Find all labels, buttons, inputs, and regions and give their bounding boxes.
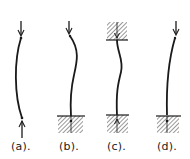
label-c: (c).	[107, 141, 126, 153]
fixed-support-icon	[156, 116, 181, 133]
buckled-column-curve	[167, 38, 175, 115]
fixed-support-icon	[57, 116, 85, 133]
top-load-arrow-icon	[173, 21, 179, 35]
column-c	[106, 22, 129, 133]
column-d	[156, 21, 181, 133]
buckled-column-curve	[117, 40, 122, 115]
top-load-arrow-icon	[18, 21, 24, 36]
column-b	[57, 21, 85, 133]
bottom-pin-icon	[21, 117, 24, 120]
label-b: (b).	[59, 141, 79, 153]
buckled-column-curve	[16, 38, 22, 118]
label-d: (d).	[157, 141, 177, 153]
column-a	[16, 21, 25, 138]
buckling-diagram	[0, 0, 190, 159]
top-fixed-support-icon	[106, 22, 128, 40]
bottom-load-arrow-icon	[19, 121, 25, 138]
bottom-fixed-support-icon	[106, 115, 129, 133]
label-a: (a).	[11, 141, 31, 153]
buckled-column-curve	[70, 36, 77, 116]
top-load-arrow-icon	[66, 21, 72, 34]
